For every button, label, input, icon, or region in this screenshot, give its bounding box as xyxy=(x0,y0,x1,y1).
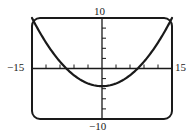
x-max-label: 15 xyxy=(175,62,186,73)
graph-window xyxy=(0,0,190,135)
y-max-label: 10 xyxy=(94,6,105,17)
x-min-label: −15 xyxy=(7,62,24,73)
y-min-label: −10 xyxy=(89,121,106,132)
